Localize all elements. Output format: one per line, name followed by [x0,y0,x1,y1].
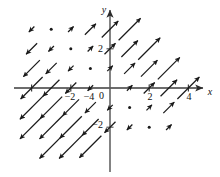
zero-vector-dot [128,106,131,109]
field-vector-arrow [127,124,133,130]
field-vector-arrow [85,24,96,35]
zero-vector-dot [69,47,72,50]
zero-vector-dot [89,67,92,70]
field-vector-arrow [138,38,160,60]
origin-label: 0 [99,90,104,101]
axes-group [14,10,203,172]
y-axis-label: y [101,4,107,15]
field-vector-arrow [40,97,62,119]
field-vector-arrow [60,116,82,138]
y-tick-label--2: −2 [92,119,103,130]
field-vector-arrow [26,43,37,54]
field-vector-arrow [40,135,63,158]
x-tick-label-4: 4 [187,91,192,102]
field-vector-arrow [23,60,39,77]
field-vector-arrow [146,105,152,111]
field-vector-arrow [141,60,158,77]
x-tick-label-2: 2 [148,91,153,102]
x-tick-label--4: −4 [84,91,95,102]
vector-field-figure: −4 −2 2 4 2 −2 0 x y [0,0,220,177]
field-vector-arrow [20,96,43,119]
plot-canvas: −4 −2 2 4 2 −2 0 x y [0,0,220,177]
field-vector-arrow [29,26,34,32]
x-tick-label--2: −2 [65,91,76,102]
y-tick-label-2: 2 [98,43,103,54]
field-vector-arrow [85,102,96,113]
field-vector-arrow [59,135,82,158]
field-vector-arrow [20,116,43,139]
x-axis-label: x [207,86,213,97]
field-vector-arrow [68,26,74,32]
field-vector-arrow [119,18,141,40]
field-vector-arrow [158,57,180,79]
field-vector-arrow [121,41,138,58]
zero-vector-dot [148,126,151,129]
field-vector-arrow [163,102,174,113]
zero-vector-dot [50,28,53,31]
field-vector-arrow [79,136,101,158]
field-vector-arrow [124,63,135,74]
field-vector-arrow [166,124,172,130]
field-vector-arrow [88,46,94,52]
field-vector-arrow [46,63,57,74]
field-vector-arrow [48,46,54,52]
field-vector-arrow [68,66,74,72]
field-vector-arrow [40,116,63,139]
